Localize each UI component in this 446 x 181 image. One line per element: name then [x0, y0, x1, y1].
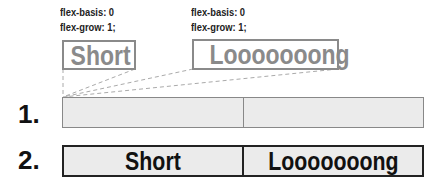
flex-item-long-text: Looooooong: [209, 41, 349, 69]
step-2-number: 2.: [18, 145, 40, 176]
step-1-cell-left: [63, 98, 243, 127]
step-2-cell-long: Looooooong: [242, 147, 422, 175]
item-2-basis-label: flex-basis: 0: [191, 6, 245, 19]
step-2-cell-short: Short: [64, 147, 242, 175]
step-2-cell-long-text: Looooooong: [268, 146, 398, 177]
item-1-grow-label: flex-grow: 1;: [60, 21, 116, 34]
item-1-basis-label: flex-basis: 0: [60, 6, 114, 19]
step-2-cell-short-text: Short: [125, 146, 181, 177]
step-2-flex-container: Short Looooooong: [62, 145, 424, 177]
item-2-grow-label: flex-grow: 1;: [191, 21, 247, 34]
flex-item-long: Looooooong: [192, 39, 339, 70]
flex-item-short: Short: [62, 40, 136, 70]
step-1-number: 1.: [18, 99, 40, 130]
step-1-flex-container: [62, 97, 424, 128]
flex-item-short-text: Short: [71, 42, 131, 70]
step-1-cell-right: [243, 98, 424, 127]
